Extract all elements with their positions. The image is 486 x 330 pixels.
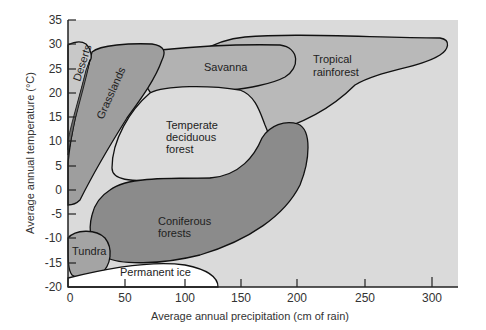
label-tropical: Tropical — [313, 53, 352, 65]
svg-text:200: 200 — [287, 291, 307, 305]
svg-text:50: 50 — [118, 291, 132, 305]
svg-text:0: 0 — [67, 291, 74, 305]
label-permanent-ice: Permanent ice — [120, 266, 191, 278]
svg-text:-15: -15 — [45, 256, 63, 270]
label-deciduous: deciduous — [166, 131, 217, 143]
biome-chart: 35 30 25 20 15 10 5 0 -5 -10 -15 -20 0 5… — [0, 0, 486, 330]
label-savanna: Savanna — [204, 61, 248, 73]
svg-text:10: 10 — [49, 134, 63, 148]
svg-text:250: 250 — [355, 291, 375, 305]
svg-text:100: 100 — [175, 291, 195, 305]
svg-text:0: 0 — [55, 183, 62, 197]
label-coniferous: Coniferous — [158, 215, 212, 227]
label-tundra: Tundra — [72, 245, 107, 257]
label-forest: forest — [166, 143, 194, 155]
svg-text:20: 20 — [49, 86, 63, 100]
svg-text:-5: -5 — [51, 207, 62, 221]
svg-text:5: 5 — [55, 159, 62, 173]
svg-text:-10: -10 — [45, 231, 63, 245]
svg-text:150: 150 — [231, 291, 251, 305]
svg-text:35: 35 — [49, 13, 63, 27]
svg-text:300: 300 — [422, 291, 442, 305]
label-forests: forests — [158, 227, 192, 239]
svg-text:25: 25 — [49, 62, 63, 76]
svg-text:30: 30 — [49, 37, 63, 51]
y-axis-title: Average annual temperature (°C) — [24, 72, 36, 234]
svg-text:-20: -20 — [45, 280, 63, 294]
svg-text:15: 15 — [49, 110, 63, 124]
label-temperate: Temperate — [166, 119, 218, 131]
label-rainforest: rainforest — [313, 66, 359, 78]
x-tick-labels: 0 50 100 150 200 250 300 — [67, 291, 443, 305]
x-axis-title: Average annual precipitation (cm of rain… — [151, 310, 349, 322]
y-tick-labels: 35 30 25 20 15 10 5 0 -5 -10 -15 -20 — [45, 13, 63, 294]
